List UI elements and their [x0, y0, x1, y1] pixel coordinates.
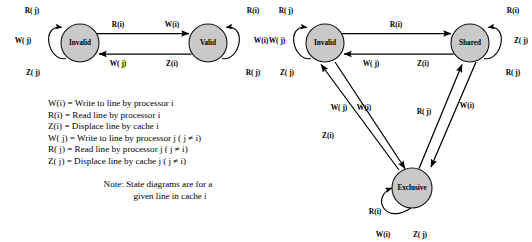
- left-top-edge-label-b: W(i): [165, 20, 180, 29]
- left-bottom-edge-label-a: W( j): [110, 59, 127, 68]
- right-invalid-loop-label-top: R( j): [279, 6, 294, 15]
- legend-line-4: W( j) = Write to line by processor j ( j…: [48, 133, 201, 143]
- figure-root: R( j) W( j) Z( j) R(i) W(i) W( j) Z(i) R…: [0, 0, 532, 242]
- right-node-exclusive[interactable]: Exclusive: [392, 168, 432, 208]
- right-diag-label-wj: W( j): [331, 103, 348, 112]
- left-state-diagram: R( j) W( j) Z( j) R(i) W(i) W( j) Z(i) R…: [15, 6, 269, 77]
- legend-line-6: Z( j) = Displace line by cache j ( j ≠ i…: [48, 156, 186, 166]
- right-shared-loop-label-top: R(i): [507, 6, 520, 15]
- left-top-edge-label-a: R(i): [112, 20, 125, 29]
- right-shared-loop-label-bottom: R( j): [506, 68, 521, 77]
- note-block: Note: State diagrams are for a given lin…: [104, 179, 213, 201]
- right-exclusive-loop-label-right: Z( j): [413, 230, 428, 239]
- right-exclusive-loop-label-top: R(i): [369, 207, 382, 216]
- right-diag-label-wi-left: W(i): [357, 103, 372, 112]
- legend-line-5: R( j) = Read line by processor j ( j ≠ i…: [48, 144, 188, 154]
- right-diag-label-rj: R( j): [417, 107, 432, 116]
- right-exclusive-loop-label-left: W(i): [376, 230, 391, 239]
- left-node-valid-label: Valid: [200, 39, 216, 47]
- left-valid-loop-label-top: R(i): [247, 6, 260, 15]
- state-diagram-canvas: R( j) W( j) Z( j) R(i) W(i) W( j) Z(i) R…: [0, 0, 532, 242]
- right-edge-exclusive-to-invalid: [321, 65, 399, 171]
- right-node-invalid-label: Invalid: [314, 39, 336, 47]
- left-bottom-edge-label-b: Z(i): [166, 59, 178, 68]
- right-node-shared-label: Shared: [459, 39, 481, 47]
- legend-line-2: R(i) = Read line by processor i: [48, 110, 161, 120]
- right-bottom-edge-label-b: Z(i): [417, 59, 429, 68]
- note-line-1: Note: State diagrams are for a: [104, 179, 213, 189]
- right-shared-loop-label-mid: Z( j): [514, 36, 529, 45]
- left-invalid-loop-label-top: R( j): [25, 6, 40, 15]
- right-edge-exclusive-to-shared: [419, 65, 462, 169]
- right-diag-label-wi-right: W(i): [460, 101, 475, 110]
- right-edge-shared-to-exclusive: [431, 62, 476, 167]
- left-node-invalid[interactable]: Invalid: [61, 24, 99, 62]
- legend-block: W(i) = Write to line by processor i R(i)…: [48, 98, 201, 166]
- legend-line-1: W(i) = Write to line by processor i: [48, 98, 174, 108]
- left-invalid-loop-label-mid: W( j): [15, 36, 32, 45]
- left-valid-loop-label-bottom: R( j): [246, 68, 261, 77]
- left-invalid-loop-label-bottom: Z( j): [26, 68, 41, 77]
- right-edge-invalid-to-exclusive: [335, 62, 405, 169]
- note-line-2: given line in cache i: [133, 191, 207, 201]
- legend-line-3: Z(i) = Displace line by cache i: [48, 121, 159, 131]
- right-top-edge-label: R(i): [390, 20, 403, 29]
- right-diag-label-zi: Z(i): [322, 131, 334, 140]
- left-node-invalid-label: Invalid: [69, 39, 91, 47]
- left-valid-loop-label-mid: W(i): [254, 36, 269, 45]
- right-invalid-loop-label-mid: W( j): [269, 36, 286, 45]
- right-invalid-loop-label-bottom: Z( j): [280, 68, 295, 77]
- right-node-shared[interactable]: Shared: [451, 24, 489, 62]
- right-state-diagram: R( j) W( j) Z( j) R(i) W( j) Z(i) R(i) Z…: [269, 6, 529, 239]
- right-node-invalid[interactable]: Invalid: [306, 24, 344, 62]
- right-node-exclusive-label: Exclusive: [397, 184, 426, 192]
- left-node-valid[interactable]: Valid: [189, 24, 227, 62]
- right-bottom-edge-label-a: W( j): [363, 59, 380, 68]
